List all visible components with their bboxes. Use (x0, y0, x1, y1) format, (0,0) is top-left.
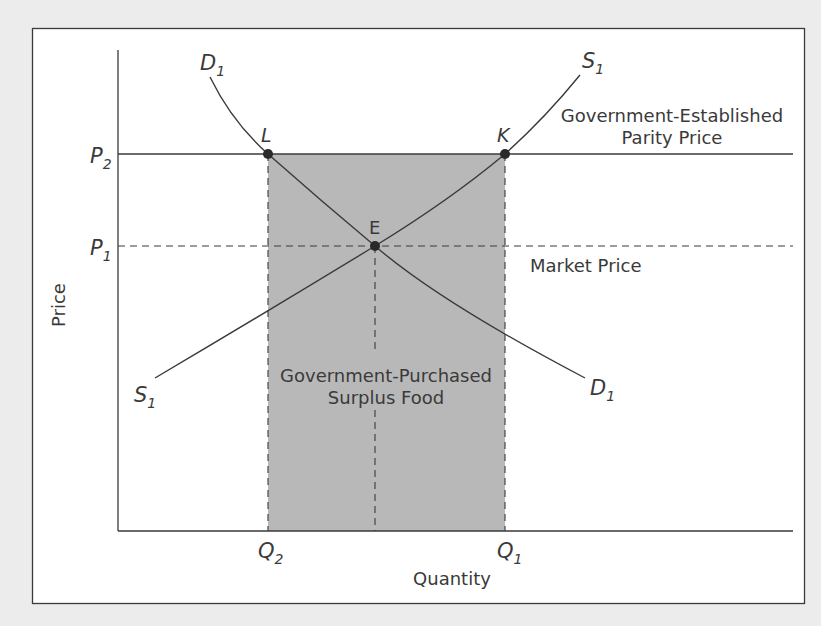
point-e-label: E (369, 217, 380, 238)
price-support-diagram: D1 S1 S1 D1 L K E P2 P1 Q2 Q1 Price Quan… (0, 0, 821, 626)
surplus-annotation-line1: Government-Purchased (280, 365, 492, 386)
y-axis-title: Price (48, 283, 69, 327)
market-price-annotation: Market Price (530, 255, 642, 276)
point-l (263, 149, 273, 159)
point-k (500, 149, 510, 159)
surplus-region (268, 154, 505, 531)
x-axis-title: Quantity (413, 568, 491, 589)
point-l-label: L (261, 124, 272, 146)
point-k-label: K (497, 124, 511, 146)
parity-price-annotation-line1: Government-Established (561, 105, 783, 126)
point-e (370, 241, 380, 251)
parity-price-annotation-line2: Parity Price (622, 127, 723, 148)
surplus-annotation-line2: Surplus Food (328, 387, 444, 408)
